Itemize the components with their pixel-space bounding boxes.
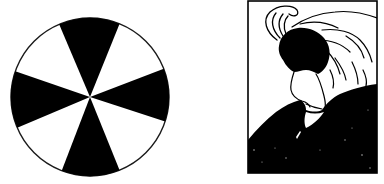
- wife-mother-in-law-illusion: My Wife and My Mother-in-Law illusion: [192, 0, 384, 184]
- figure-ground-wheel: Ambiguous figure-ground wheel: [0, 0, 192, 184]
- portrait-graphic: [192, 0, 384, 184]
- wheel-graphic: [0, 0, 192, 184]
